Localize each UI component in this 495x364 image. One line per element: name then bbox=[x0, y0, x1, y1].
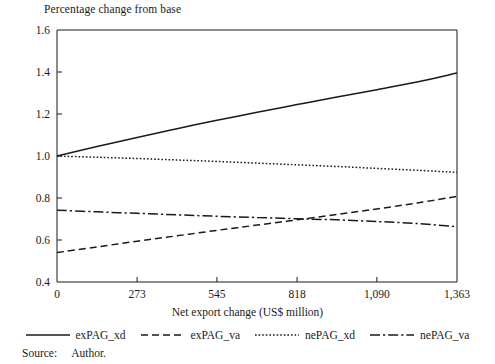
x-axis-tick-label: 1,090 bbox=[364, 288, 390, 300]
y-axis-tick-label: 1.4 bbox=[18, 66, 50, 78]
legend-swatch-dotted-icon bbox=[255, 330, 299, 340]
chart-legend: exPAG_xdexPAG_vanePAG_xdnePAG_va bbox=[0, 329, 495, 341]
legend-label: exPAG_xd bbox=[76, 329, 126, 341]
x-axis-tick-label: 1,363 bbox=[444, 288, 470, 300]
legend-label: nePAG_xd bbox=[305, 329, 355, 341]
series-line-expag_xd bbox=[57, 73, 457, 156]
legend-swatch-dashdot-icon bbox=[370, 330, 414, 340]
legend-label: exPAG_va bbox=[191, 329, 240, 341]
legend-swatch-dashed-icon bbox=[141, 330, 185, 340]
legend-label: nePAG_va bbox=[420, 329, 469, 341]
x-axis-tick-label: 818 bbox=[288, 288, 305, 300]
legend-entry-nepag_va[interactable]: nePAG_va bbox=[370, 329, 469, 341]
y-axis-tick-label: 1.2 bbox=[18, 108, 50, 120]
series-line-nepag_xd bbox=[57, 156, 457, 172]
y-axis-tick-label: 1.0 bbox=[18, 150, 50, 162]
legend-swatch-solid-icon bbox=[26, 330, 70, 340]
source-value: Author. bbox=[71, 347, 106, 359]
source-label: Source: bbox=[22, 347, 57, 359]
series-line-expag_va bbox=[57, 196, 457, 252]
x-axis-tick-label: 545 bbox=[208, 288, 225, 300]
x-axis-tick-label: 273 bbox=[128, 288, 145, 300]
source-note: Source:Author. bbox=[22, 347, 106, 359]
series-line-nepag_va bbox=[57, 210, 457, 227]
legend-entry-expag_xd[interactable]: exPAG_xd bbox=[26, 329, 126, 341]
x-axis-tick-label: 0 bbox=[54, 288, 60, 300]
y-axis-tick-label: 1.6 bbox=[18, 24, 50, 36]
y-axis-tick-label: 0.8 bbox=[18, 192, 50, 204]
legend-entry-nepag_xd[interactable]: nePAG_xd bbox=[255, 329, 355, 341]
x-axis-label: Net export change (US$ million) bbox=[0, 306, 495, 318]
chart-title: Percentage change from base bbox=[44, 3, 181, 15]
legend-entry-expag_va[interactable]: exPAG_va bbox=[141, 329, 240, 341]
y-axis-tick-label: 0.6 bbox=[18, 234, 50, 246]
chart-figure: Percentage change from base 0.40.60.81.0… bbox=[0, 0, 495, 364]
y-axis-tick-label: 0.4 bbox=[18, 276, 50, 288]
